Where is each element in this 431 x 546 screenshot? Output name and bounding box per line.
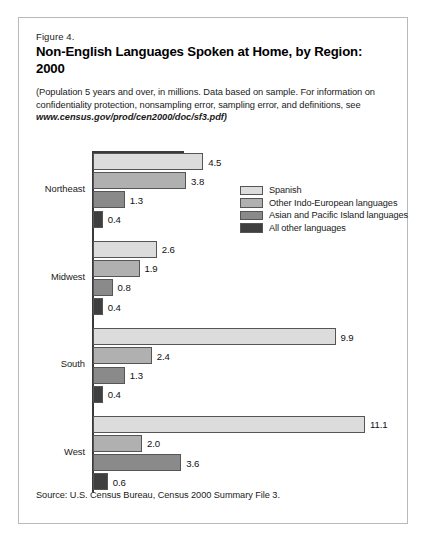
bar-asian-and-pacific-island-languages bbox=[93, 191, 125, 208]
bar-row: 0.4 bbox=[93, 386, 403, 403]
figure-header: Figure 4. Non-English Languages Spoken a… bbox=[36, 30, 394, 124]
bar-row: 2.4 bbox=[93, 347, 403, 364]
legend-item: Asian and Pacific Island languages bbox=[240, 209, 408, 222]
legend-label: All other languages bbox=[269, 223, 346, 233]
bar-spanish bbox=[93, 241, 157, 258]
chart-legend: SpanishOther Indo-European languagesAsia… bbox=[240, 184, 408, 234]
bar-group-west: West11.12.03.60.6 bbox=[19, 416, 407, 491]
bar-other-indo-european-languages bbox=[93, 172, 186, 189]
category-label: Northeast bbox=[0, 183, 85, 194]
figure-subtitle-url: www.census.gov/prod/cen2000/doc/sf3.pdf) bbox=[36, 112, 227, 122]
legend-item: Spanish bbox=[240, 184, 408, 197]
bar-value-label: 3.6 bbox=[186, 457, 199, 468]
bar-value-label: 0.8 bbox=[118, 282, 131, 293]
legend-label: Spanish bbox=[269, 185, 302, 195]
bar-row: 0.8 bbox=[93, 279, 403, 296]
bar-value-label: 4.5 bbox=[208, 156, 221, 167]
bar-asian-and-pacific-island-languages bbox=[93, 454, 181, 471]
bar-row: 2.6 bbox=[93, 241, 403, 258]
figure-frame: Figure 4. Non-English Languages Spoken a… bbox=[18, 17, 408, 524]
bar-other-indo-european-languages bbox=[93, 435, 142, 452]
bar-asian-and-pacific-island-languages bbox=[93, 279, 113, 296]
figure-subtitle-text: (Population 5 years and over, in million… bbox=[36, 87, 375, 110]
figure-title: Non-English Languages Spoken at Home, by… bbox=[36, 44, 394, 77]
legend-item: Other Indo-European languages bbox=[240, 197, 408, 210]
bar-group-south: South9.92.41.30.4 bbox=[19, 328, 407, 403]
bar-value-label: 1.9 bbox=[145, 263, 158, 274]
bar-row: 4.5 bbox=[93, 153, 403, 170]
bar-value-label: 1.3 bbox=[130, 370, 143, 381]
figure-number-label: Figure 4. bbox=[36, 30, 394, 43]
bar-other-indo-european-languages bbox=[93, 347, 152, 364]
category-label: South bbox=[0, 358, 85, 369]
legend-label: Other Indo-European languages bbox=[269, 198, 397, 208]
source-note: Source: U.S. Census Bureau, Census 2000 … bbox=[36, 490, 280, 500]
bar-row: 2.0 bbox=[93, 435, 403, 452]
bar-row: 9.9 bbox=[93, 328, 403, 345]
bar-value-label: 11.1 bbox=[370, 419, 388, 430]
bar-value-label: 0.4 bbox=[108, 214, 121, 225]
bar-row: 11.1 bbox=[93, 416, 403, 433]
bar-all-other-languages bbox=[93, 211, 103, 228]
bar-other-indo-european-languages bbox=[93, 260, 140, 277]
bar-value-label: 0.6 bbox=[113, 476, 126, 487]
bar-spanish bbox=[93, 153, 203, 170]
legend-item: All other languages bbox=[240, 222, 408, 235]
legend-swatch-icon bbox=[240, 211, 263, 221]
bar-all-other-languages bbox=[93, 473, 108, 490]
bar-spanish bbox=[93, 328, 336, 345]
legend-label: Asian and Pacific Island languages bbox=[269, 210, 408, 220]
bar-all-other-languages bbox=[93, 298, 103, 315]
legend-swatch-icon bbox=[240, 198, 263, 208]
bar-value-label: 2.6 bbox=[162, 244, 175, 255]
legend-swatch-icon bbox=[240, 186, 263, 196]
bar-all-other-languages bbox=[93, 386, 103, 403]
bar-spanish bbox=[93, 416, 365, 433]
bar-value-label: 0.4 bbox=[108, 301, 121, 312]
bar-value-label: 2.0 bbox=[147, 438, 160, 449]
bar-group-midwest: Midwest2.61.90.80.4 bbox=[19, 241, 407, 316]
bar-row: 1.3 bbox=[93, 367, 403, 384]
bar-value-label: 3.8 bbox=[191, 175, 204, 186]
bar-value-label: 2.4 bbox=[157, 350, 170, 361]
figure-subtitle: (Population 5 years and over, in million… bbox=[36, 86, 394, 124]
bar-chart-plot: Northeast4.53.81.30.4Midwest2.61.90.80.4… bbox=[19, 144, 407, 494]
bar-row: 0.4 bbox=[93, 298, 403, 315]
legend-swatch-icon bbox=[240, 223, 263, 233]
bar-value-label: 9.9 bbox=[341, 331, 354, 342]
bar-row: 3.6 bbox=[93, 454, 403, 471]
category-label: Midwest bbox=[0, 271, 85, 282]
category-label: West bbox=[0, 446, 85, 457]
bar-row: 1.9 bbox=[93, 260, 403, 277]
bar-row: 0.6 bbox=[93, 473, 403, 490]
bar-asian-and-pacific-island-languages bbox=[93, 367, 125, 384]
bar-value-label: 1.3 bbox=[130, 194, 143, 205]
bar-value-label: 0.4 bbox=[108, 389, 121, 400]
